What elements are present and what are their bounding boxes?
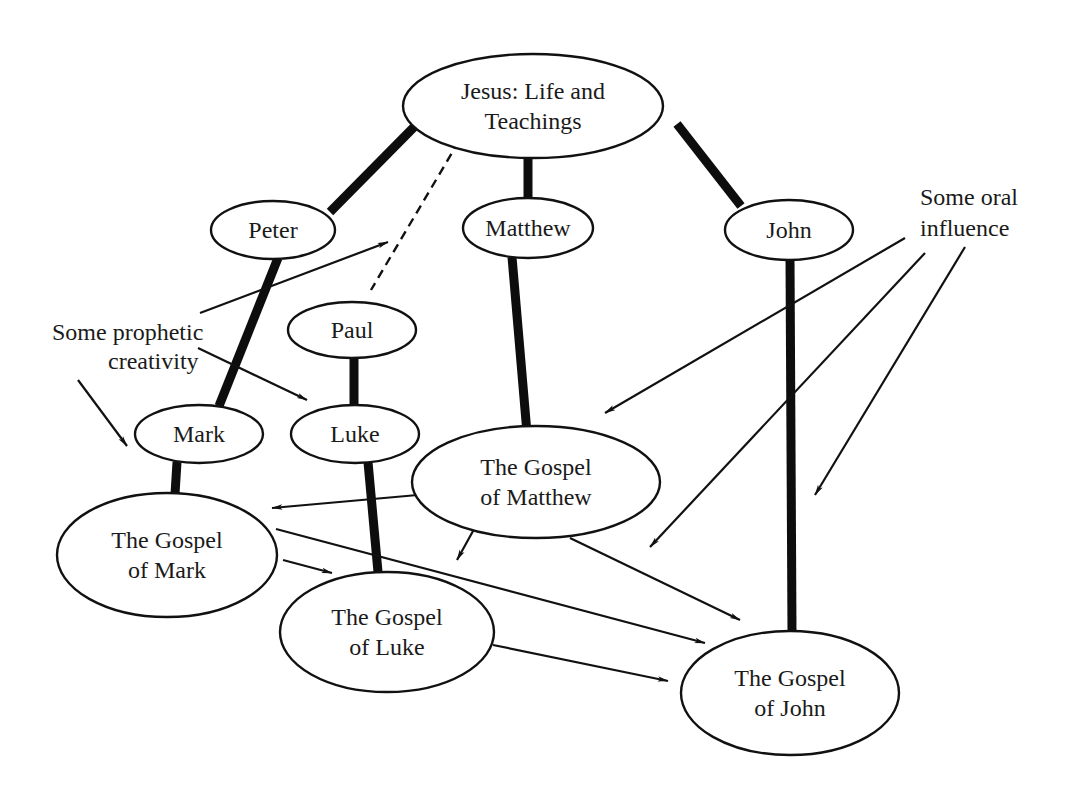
- arrow-prophetic-creativity-to-luke: [198, 348, 307, 400]
- node-label: of Matthew: [480, 484, 592, 510]
- node-label: The Gospel: [734, 665, 846, 691]
- link-matthew-to-gospel-matthew: [512, 257, 527, 433]
- arrow-oral-influence-to-gospel-john-right: [815, 247, 965, 495]
- node-ellipse: [280, 572, 494, 692]
- node-ellipse: [57, 493, 277, 617]
- gospel-sources-diagram: Jesus: Life andTeachingsPeterMatthewJohn…: [0, 0, 1091, 800]
- link-mark-to-gospel-mark: [175, 462, 177, 494]
- annotation-label: creativity: [108, 348, 199, 374]
- arrow-oral-influence-to-gospel-matthew: [605, 238, 905, 413]
- annotation-prophetic-creativity: Some propheticcreativity: [52, 319, 203, 374]
- node-ellipse: [681, 631, 899, 755]
- node-label: Peter: [248, 217, 297, 243]
- node-label: Paul: [331, 317, 374, 343]
- node-gospel-luke: The Gospelof Luke: [280, 572, 494, 692]
- node-ellipse: [403, 54, 663, 158]
- node-label: Teachings: [485, 108, 582, 134]
- annotation-label: Some oral: [920, 184, 1018, 210]
- node-luke: Luke: [291, 405, 419, 463]
- node-matthew: Matthew: [463, 198, 593, 258]
- node-label: Luke: [330, 421, 379, 447]
- node-label: The Gospel: [480, 454, 592, 480]
- node-gospel-mark: The Gospelof Mark: [57, 493, 277, 617]
- node-gospel-john: The Gospelof John: [681, 631, 899, 755]
- link-jesus-to-peter: [330, 124, 417, 212]
- annotation-oral-influence: Some oralinfluence: [920, 184, 1018, 241]
- node-gospel-matthew: The Gospelof Matthew: [412, 426, 660, 538]
- node-jesus: Jesus: Life andTeachings: [403, 54, 663, 158]
- node-label: The Gospel: [331, 604, 443, 630]
- node-label: Matthew: [485, 215, 571, 241]
- node-ellipse: [412, 426, 660, 538]
- node-label: The Gospel: [111, 527, 223, 553]
- node-mark: Mark: [135, 405, 263, 463]
- node-peter: Peter: [211, 201, 335, 259]
- node-label: of Luke: [349, 634, 424, 660]
- node-label: John: [766, 217, 811, 243]
- source-nodes: Jesus: Life andTeachingsPeterMatthewJohn…: [57, 54, 899, 755]
- annotation-label: Some prophetic: [52, 319, 203, 345]
- node-john: John: [725, 200, 853, 260]
- arrow-prophetic-creativity-to-mark: [78, 380, 127, 446]
- link-jesus-to-john: [677, 124, 741, 206]
- arrow-gospel-luke-to-gospel-john: [493, 645, 668, 681]
- annotation-label: influence: [920, 215, 1009, 241]
- link-john-to-gospel-john: [790, 258, 792, 632]
- node-label: of John: [754, 695, 825, 721]
- node-label: of Mark: [128, 557, 206, 583]
- arrow-gospel-mark-to-gospel-luke: [283, 560, 332, 573]
- node-paul: Paul: [288, 302, 416, 358]
- link-peter-to-mark: [219, 258, 278, 406]
- node-label: Mark: [173, 421, 225, 447]
- arrow-gospel-matthew-to-gospel-john: [570, 538, 740, 620]
- node-label: Jesus: Life and: [461, 78, 605, 104]
